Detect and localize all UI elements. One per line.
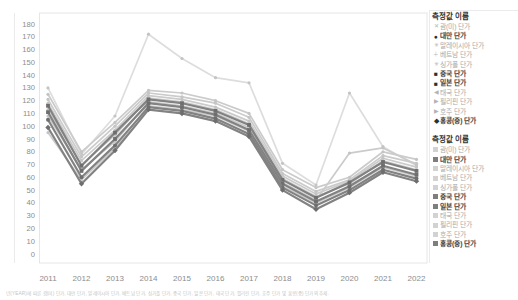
series-marker[interactable]	[247, 81, 250, 84]
legend-item[interactable]: 괌(미) 단가	[432, 145, 516, 154]
legend-item[interactable]: 태국 단가	[432, 211, 516, 220]
series-marker[interactable]	[214, 102, 217, 105]
series-marker[interactable]	[415, 158, 418, 161]
legend-item[interactable]: 베트남 단가	[432, 173, 516, 182]
series-marker[interactable]	[113, 121, 116, 124]
legend-item[interactable]: 호주 단가	[432, 230, 516, 239]
series-marker[interactable]	[314, 186, 317, 189]
series-marker[interactable]	[348, 91, 351, 94]
legend-item[interactable]: ◆홍콩(중) 단가	[432, 116, 516, 125]
series-marker[interactable]	[113, 137, 117, 141]
series-marker[interactable]	[46, 110, 50, 114]
series-marker[interactable]	[46, 98, 49, 101]
swatch-icon	[433, 166, 438, 171]
series-marker[interactable]	[348, 181, 352, 185]
series-marker[interactable]	[381, 146, 384, 149]
x-axis-label: 2011	[39, 274, 57, 283]
legend-divider	[429, 10, 430, 263]
series-marker[interactable]	[247, 123, 251, 127]
legend-item[interactable]: ✳싱가폴 단가	[432, 60, 516, 69]
legend-item[interactable]: ▶필리핀 단가	[432, 97, 516, 106]
series-marker[interactable]	[247, 116, 250, 119]
series-marker[interactable]	[214, 113, 218, 117]
series-marker[interactable]	[381, 160, 385, 164]
legend-item-label: 중국 단가	[440, 192, 466, 201]
legend-item[interactable]: 홍콩(중) 단가	[432, 239, 516, 248]
series-marker[interactable]	[348, 151, 351, 154]
series-marker[interactable]	[113, 114, 116, 117]
legend-item-label: 홍콩(중) 단가	[440, 239, 476, 248]
series-marker[interactable]	[46, 86, 49, 89]
series-marker[interactable]	[281, 162, 284, 165]
x-axis-label: 2014	[140, 274, 158, 283]
legend-item[interactable]: ■중국 단가	[432, 69, 516, 78]
series-marker[interactable]	[415, 173, 419, 177]
legend-item[interactable]: 대만 단가	[432, 155, 516, 164]
y-axis-label: 60	[27, 173, 35, 182]
series-marker[interactable]	[147, 101, 151, 105]
y-axis-label: 150	[22, 58, 35, 67]
series-marker[interactable]	[415, 163, 418, 166]
series-marker[interactable]	[214, 76, 217, 79]
series-marker[interactable]	[247, 112, 250, 115]
chart-caption: 년(YEAR)에 따른 괌(미) 단가, 대만 단가, 말레이시아 단가, 베트…	[6, 290, 430, 296]
series-marker[interactable]	[80, 169, 84, 173]
diamond-marker-icon: ◆	[432, 116, 440, 125]
series-marker[interactable]	[180, 105, 184, 109]
square-marker-icon: ■	[432, 69, 440, 78]
asterisk-marker-icon: ✳	[432, 60, 440, 69]
series-marker[interactable]	[80, 150, 83, 153]
series-marker[interactable]	[381, 150, 384, 153]
swatch-icon	[433, 241, 438, 246]
series-marker[interactable]	[180, 57, 183, 60]
swatch-icon	[433, 223, 438, 228]
series-marker[interactable]	[113, 143, 117, 147]
y-axis-label: 20	[27, 224, 35, 233]
series-marker[interactable]	[46, 118, 50, 122]
series-marker[interactable]	[180, 91, 183, 94]
line-chart[interactable]: 0102030405060708090100110120130140150160…	[0, 0, 432, 300]
series-marker[interactable]	[46, 104, 50, 108]
legend-item[interactable]: 필리핀 단가	[432, 220, 516, 229]
legend-item[interactable]: ＋베트남 단가	[432, 50, 516, 59]
series-marker[interactable]	[180, 101, 184, 105]
legend-item-label: 베트남 단가	[440, 173, 472, 182]
y-axis-label: 130	[22, 83, 35, 92]
y-axis-label: 110	[23, 109, 35, 118]
series-marker[interactable]	[46, 93, 49, 96]
legend-item[interactable]: ◀태국 단가	[432, 88, 516, 97]
legend-item-label: 괌(미) 단가	[440, 22, 470, 31]
legend-item[interactable]: ✕괌(미) 단가	[432, 22, 516, 31]
x-axis-label: 2020	[341, 274, 359, 283]
series-marker[interactable]	[348, 184, 352, 188]
legend-item-label: 괌(미) 단가	[440, 145, 470, 154]
series-marker[interactable]	[381, 164, 385, 168]
legend-item[interactable]: 말레이시아 단가	[432, 164, 516, 173]
legend-item-label: 중국 단가	[440, 69, 466, 78]
circle-marker-icon: ●	[432, 32, 440, 41]
legend-item[interactable]: ✳말레이시아 단가	[432, 41, 516, 50]
series-marker[interactable]	[80, 175, 84, 179]
legend-item[interactable]: ●대만 단가	[432, 31, 516, 40]
legend-item-label: 일본 단가	[440, 78, 466, 87]
x-axis-label: 2021	[374, 274, 392, 283]
color-legend-items: 괌(미) 단가대만 단가말레이시아 단가베트남 단가싱가폴 단가중국 단가일본 …	[432, 145, 516, 248]
legend-item[interactable]: ■일본 단가	[432, 78, 516, 87]
legend-item-label: 싱가폴 단가	[440, 60, 472, 69]
series-marker[interactable]	[147, 33, 150, 36]
x-axis-label: 2019	[307, 274, 325, 283]
series-marker[interactable]	[247, 128, 251, 132]
series-marker[interactable]	[214, 109, 218, 113]
legend-title: 측정값 이름	[432, 134, 516, 145]
square-marker-icon: ■	[432, 79, 440, 88]
legend-item[interactable]: 일본 단가	[432, 202, 516, 211]
series-marker[interactable]	[415, 169, 419, 173]
series-marker[interactable]	[147, 97, 151, 101]
series-marker[interactable]	[113, 125, 116, 128]
legend-item[interactable]: 싱가폴 단가	[432, 183, 516, 192]
series-marker[interactable]	[113, 131, 117, 135]
legend-item[interactable]: ▶호주 단가	[432, 107, 516, 116]
series-marker[interactable]	[314, 196, 318, 200]
series-marker[interactable]	[314, 200, 318, 204]
legend-item[interactable]: 중국 단가	[432, 192, 516, 201]
